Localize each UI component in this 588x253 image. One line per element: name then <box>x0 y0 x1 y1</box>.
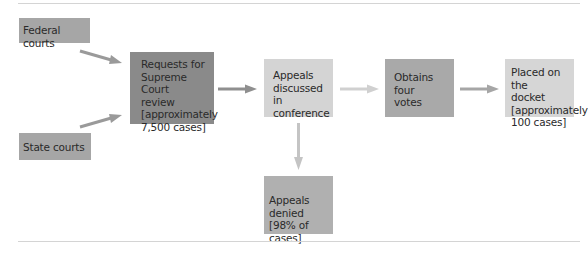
appeals-denied-label: Appeals denied [98% of cases] <box>269 194 333 244</box>
placed-on-docket-label: Placed on the docket [approximately 100 … <box>511 66 574 129</box>
placed-on-docket-node: Placed on the docket [approximately 100 … <box>505 59 574 117</box>
arrow-discussed-to-denied <box>294 123 303 170</box>
appeals-discussed-node: Appeals discussed in conference <box>264 59 333 117</box>
arrow-federal-to-requests <box>80 51 122 64</box>
arrow-state-to-requests <box>80 114 122 127</box>
federal-courts-node: Federal courts <box>19 18 90 43</box>
bottom-divider-rule <box>18 241 580 242</box>
appeals-discussed-label: Appeals discussed in conference <box>273 69 333 119</box>
arrow-obtains-to-placed <box>460 85 499 94</box>
appeals-denied-node: Appeals denied [98% of cases] <box>264 176 333 234</box>
requests-for-review-node: Requests for Supreme Court review [appro… <box>130 52 214 124</box>
arrow-discussed-to-obtains <box>340 85 379 94</box>
obtains-four-votes-node: Obtains four votes <box>385 59 454 117</box>
requests-for-review-label: Requests for Supreme Court review [appro… <box>141 58 214 133</box>
obtains-four-votes-label: Obtains four votes <box>394 71 454 109</box>
state-courts-label: State courts <box>23 141 91 154</box>
federal-courts-label: Federal courts <box>23 24 90 49</box>
state-courts-node: State courts <box>19 133 91 160</box>
arrow-requests-to-discussed <box>218 85 257 94</box>
